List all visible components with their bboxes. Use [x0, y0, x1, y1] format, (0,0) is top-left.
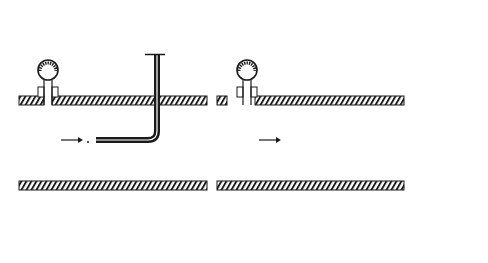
pipe-wall-upper-b — [217, 96, 404, 105]
pipe-wall-lower-b — [217, 181, 404, 190]
panel-b-prandtl — [217, 60, 404, 190]
pipe-wall-upper-a — [19, 96, 207, 105]
pitot-tube-diagram — [0, 0, 488, 263]
flow-arrow-icon — [259, 137, 281, 143]
pipe-wall-lower-a — [19, 181, 207, 190]
panel-a-stagnation — [19, 55, 207, 191]
flow-arrow-icon — [61, 137, 89, 143]
pressure-gauge-icon — [237, 60, 257, 105]
